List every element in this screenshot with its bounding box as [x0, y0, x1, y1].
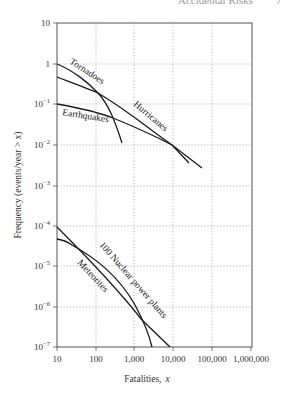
x-tick-10: 10	[53, 354, 63, 364]
y-tick-1e-7: 10−7	[34, 340, 51, 352]
series-lines	[57, 64, 202, 347]
y-axis-title: Frequency (events/year > x)	[13, 132, 24, 239]
x-tick-labels: 10 100 1,000 10,000 100,000 1,000,000	[53, 354, 270, 364]
y-tick-labels: 10 1 10−1 10−2 10−3 10−4 10−5 10−6 10−7	[34, 18, 51, 352]
earthquakes-label: Earthquakes	[62, 107, 110, 124]
y-tick-1e-5: 10−5	[34, 259, 50, 271]
y-tick-1e-3: 10−3	[34, 179, 50, 191]
risk-frequency-chart: 10 1 10−1 10−2 10−3 10−4 10−5 10−6 10−7 …	[0, 0, 286, 393]
y-tick-1e-1: 10−1	[34, 97, 50, 109]
x-tick-100: 100	[89, 354, 103, 364]
y-ticks	[53, 23, 57, 347]
series-labels: Tornadoes Hurricanes Earthquakes 100 Nuc…	[62, 56, 171, 320]
x-axis-title: Fatalities,x	[124, 374, 170, 384]
y-tick-10: 10	[41, 18, 51, 28]
x-tick-100000: 100,000	[197, 354, 227, 364]
y-tick-1e-4: 10−4	[34, 219, 51, 231]
y-tick-1e-2: 10−2	[34, 138, 50, 150]
meteorites-curve	[57, 227, 170, 347]
nuclear-plants-curve	[57, 239, 152, 347]
x-tick-1000000: 1,000,000	[233, 354, 270, 364]
x-tick-1000: 1,000	[124, 354, 145, 364]
x-ticks	[57, 347, 251, 351]
tornadoes-label: Tornadoes	[68, 56, 107, 86]
x-tick-10000: 10,000	[161, 354, 186, 364]
y-tick-1: 1	[46, 59, 51, 69]
y-tick-1e-6: 10−6	[34, 300, 51, 312]
meteorites-label: Meteorites	[76, 258, 111, 295]
